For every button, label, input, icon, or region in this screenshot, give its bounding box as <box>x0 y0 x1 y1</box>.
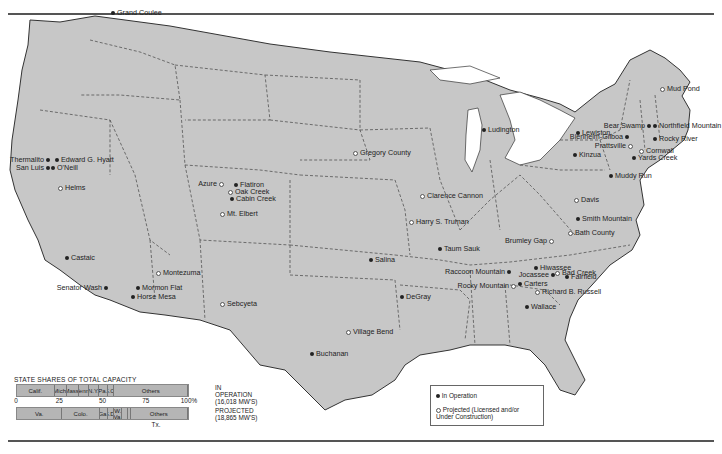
operating-marker-icon <box>55 158 59 162</box>
projected-marker-icon <box>353 151 358 156</box>
operating-marker-icon <box>46 166 50 170</box>
site-label: Wallace <box>531 302 556 311</box>
site-marker: DeGray <box>400 293 431 301</box>
site-marker: Richard B. Russell <box>535 288 601 296</box>
site-label: Brumley Gap <box>505 236 547 245</box>
site-marker: Buchanan <box>310 350 348 358</box>
site-marker: Fairfield <box>565 273 597 281</box>
site-marker: Davis <box>574 196 599 204</box>
site-label: Rocky River <box>659 134 698 143</box>
site-label: Clarence Cannon <box>427 191 483 200</box>
site-label: Gregory County <box>360 148 411 157</box>
site-label: Richard B. Russell <box>542 287 601 296</box>
capacity-chart: STATE SHARES OF TOTAL CAPACITY Calif.Mic… <box>0 376 260 426</box>
site-marker: Grand Coulee <box>111 9 162 17</box>
bar-segment: S.C. <box>108 385 115 396</box>
site-marker: Ludington <box>482 126 520 134</box>
bar-segment: Tenn. <box>79 385 89 396</box>
site-marker: Village Bend <box>346 328 393 336</box>
site-marker: Taum Sauk <box>438 245 480 253</box>
bar-segment: Others <box>114 385 188 396</box>
projected-marker-icon <box>568 231 573 236</box>
projected-marker-icon <box>660 87 665 92</box>
bar-segment: Mass. <box>67 385 78 396</box>
projected-marker-icon <box>409 220 414 225</box>
projected-marker-icon <box>535 290 540 295</box>
projected-marker-icon <box>555 271 560 276</box>
site-label: Montezuma <box>163 268 201 277</box>
operating-marker-icon <box>647 124 651 128</box>
site-label: Smith Mountain <box>582 214 632 223</box>
bar-projected: Va.Colo.Ga.S.D.W. Va.Others <box>16 407 189 420</box>
operating-marker-icon <box>653 137 657 141</box>
operating-marker-icon <box>131 295 135 299</box>
site-label: Davis <box>581 195 599 204</box>
bar-segment: Ga. <box>100 408 108 419</box>
projected-total: (18,865 MW'S) <box>215 414 257 421</box>
site-label: Helms <box>65 183 85 192</box>
projected-marker-icon <box>219 182 224 187</box>
axis-tick: 0 <box>14 397 18 404</box>
operating-marker-icon <box>310 352 314 356</box>
in-operation-total: (16,018 MW'S) <box>215 398 260 405</box>
site-marker: Yards Creek <box>632 154 677 162</box>
site-marker: Senator Wash <box>57 284 108 292</box>
site-label: Jocassee <box>519 270 549 279</box>
site-label: Bear Swamp <box>604 121 645 130</box>
site-marker: Montezuma <box>156 269 201 277</box>
operating-marker-icon <box>438 247 442 251</box>
site-marker: Rocky River <box>653 135 698 143</box>
site-marker: Bear Swamp <box>604 122 651 130</box>
operating-marker-icon <box>632 156 636 160</box>
site-label: Prattsville <box>595 141 626 150</box>
map-legend: In Operation Projected (Licensed and/or … <box>430 385 544 426</box>
projected-marker-icon <box>574 198 579 203</box>
legend-projected: Projected (Licensed and/or Under Constru… <box>436 406 536 420</box>
bar-in-operation: Calif.Mich.Mass.Tenn.N.Y.Pa.S.C.Others <box>16 384 189 397</box>
site-label: San Luis <box>16 163 44 172</box>
projected-marker-icon <box>156 271 161 276</box>
site-marker: Rocky Mountain <box>457 282 516 290</box>
site-marker: Muddy Run <box>609 172 652 180</box>
legend-projected-label: Projected (Licensed and/or Under Constru… <box>436 406 519 420</box>
us-outline <box>10 16 690 410</box>
site-marker: Gregory County <box>353 149 411 157</box>
bar-segment: W. Va. <box>114 408 122 419</box>
site-marker: Wallace <box>525 303 556 311</box>
site-label: Buchanan <box>316 349 348 358</box>
site-marker: Salina <box>369 256 395 264</box>
site-label: Castaic <box>71 253 95 262</box>
chart-title: STATE SHARES OF TOTAL CAPACITY <box>14 376 137 383</box>
legend-operating: In Operation <box>436 392 477 399</box>
axis-tick: 25 <box>56 397 63 404</box>
site-marker: Mormon Flat <box>136 284 182 292</box>
operating-marker-icon <box>625 135 629 139</box>
site-label: Northfield Mountain <box>659 121 721 130</box>
site-label: Senator Wash <box>57 283 102 292</box>
operating-marker-icon <box>482 128 486 132</box>
site-label: Salina <box>375 255 395 264</box>
operating-marker-icon <box>65 256 69 260</box>
bar-segment: Mich. <box>55 385 68 396</box>
operating-marker-icon <box>369 258 373 262</box>
site-label: Cabin Creek <box>236 194 276 203</box>
site-label: Blenheim-Gilboa <box>570 132 623 141</box>
site-marker: Horse Mesa <box>131 293 176 301</box>
projected-marker-icon <box>549 239 554 244</box>
tx-annotation: Tx. <box>152 421 161 428</box>
site-label: Kinzua <box>579 150 601 159</box>
projected-title: PROJECTED <box>215 407 257 414</box>
operating-marker-icon <box>576 217 580 221</box>
site-label: Rocky Mountain <box>457 281 509 290</box>
site-marker: Mt. Elbert <box>220 210 258 218</box>
site-marker: Bath County <box>568 229 615 237</box>
operating-marker-icon <box>609 174 613 178</box>
site-label: Village Bend <box>353 327 393 336</box>
operating-marker-icon <box>573 153 577 157</box>
site-marker: San Luis <box>16 164 50 172</box>
site-marker: Helms <box>58 184 85 192</box>
site-label: Mud Pond <box>667 84 700 93</box>
projected-label: PROJECTED (18,865 MW'S) <box>215 407 257 421</box>
site-marker: Kinzua <box>573 151 601 159</box>
site-label: Taum Sauk <box>444 244 480 253</box>
